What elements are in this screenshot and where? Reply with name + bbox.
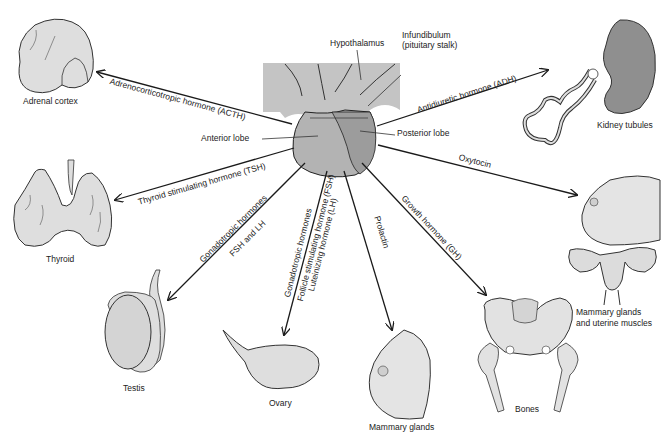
testis-label: Testis [123, 384, 145, 394]
testis-illustration [105, 270, 165, 372]
kidney-tubules-label: Kidney tubules [597, 121, 653, 131]
infundibulum-sublabel: (pituitary stalk) [402, 41, 457, 51]
thyroid-label: Thyroid [46, 255, 74, 265]
anterior-lobe-label: Anterior lobe [201, 134, 249, 144]
mammary-uterine-label-2: and uterine muscles [576, 319, 652, 329]
bones-label: Bones [515, 405, 539, 415]
mammary-uterine-label-1: Mammary glands [576, 308, 641, 318]
thyroid-illustration [14, 160, 112, 246]
adrenal-cortex-illustration [19, 19, 93, 93]
uterus-illustration [569, 247, 657, 305]
adrenal-cortex-label: Adrenal cortex [23, 97, 78, 107]
diagram-canvas [0, 0, 671, 438]
pituitary-gland-shape [262, 110, 395, 177]
mammary-glands-label: Mammary glands [369, 423, 434, 433]
ovary-illustration [223, 330, 319, 389]
hypothalamus-label: Hypothalamus [330, 39, 384, 49]
mammary-glands-illustration [369, 330, 430, 419]
ovary-label: Ovary [269, 399, 292, 409]
mammary-right-illustration [582, 176, 660, 245]
posterior-lobe-label: Posterior lobe [397, 129, 449, 139]
bones-illustration [478, 298, 578, 412]
